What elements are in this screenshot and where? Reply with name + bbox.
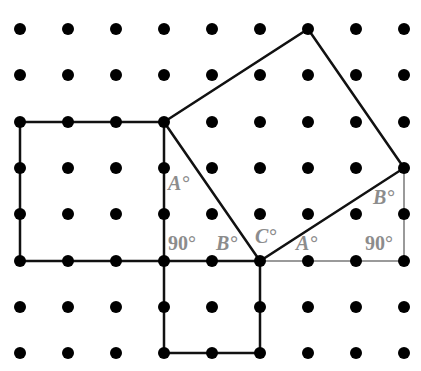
- grid-dot: [110, 69, 122, 81]
- grid-dot: [62, 301, 74, 313]
- grid-dot: [62, 162, 74, 174]
- grid-dot: [350, 255, 362, 267]
- dot-grid-diagram: A° 90° B° C° A° B° 90°: [0, 0, 421, 371]
- grid-dot: [62, 255, 74, 267]
- tilted-square: [164, 29, 404, 261]
- grid-dot: [302, 69, 314, 81]
- grid-dot: [158, 301, 170, 313]
- grid-dot: [14, 69, 26, 81]
- grid-dot: [254, 301, 266, 313]
- grid-dot: [254, 347, 266, 359]
- grid-dot: [398, 301, 410, 313]
- grid-dot: [206, 208, 218, 220]
- grid-dot: [350, 69, 362, 81]
- grid-dot: [254, 255, 266, 267]
- grid-dot: [398, 255, 410, 267]
- label-right-90: 90°: [365, 232, 393, 254]
- grid-dot: [302, 255, 314, 267]
- grid-dot: [110, 255, 122, 267]
- grid-dot: [302, 162, 314, 174]
- grid-dot: [302, 23, 314, 35]
- grid-dot: [302, 208, 314, 220]
- grid-dot: [302, 347, 314, 359]
- grid-dot: [206, 347, 218, 359]
- grid-dot: [158, 69, 170, 81]
- grid-dot: [14, 255, 26, 267]
- grid-dot: [350, 116, 362, 128]
- grid-dot: [110, 301, 122, 313]
- grid-dot: [254, 69, 266, 81]
- grid-dot: [110, 23, 122, 35]
- left-square: [20, 122, 164, 261]
- label-left-90: 90°: [168, 232, 196, 254]
- grid-dot: [14, 347, 26, 359]
- grid-dot: [14, 301, 26, 313]
- grid-dot: [158, 347, 170, 359]
- grid-dot: [206, 23, 218, 35]
- grid-dot: [206, 162, 218, 174]
- grid-dot: [158, 23, 170, 35]
- grid-dot: [398, 162, 410, 174]
- label-center-C: C°: [255, 225, 276, 247]
- grid-dot: [398, 23, 410, 35]
- grid-dot: [254, 208, 266, 220]
- grid-dot: [350, 23, 362, 35]
- grid-dot: [206, 116, 218, 128]
- grid-dot: [14, 116, 26, 128]
- grid-dot: [14, 208, 26, 220]
- grid-dot: [350, 301, 362, 313]
- grid-dot: [254, 162, 266, 174]
- grid-dot: [350, 162, 362, 174]
- grid-dot: [302, 116, 314, 128]
- grid-dot: [254, 23, 266, 35]
- grid-dot: [62, 208, 74, 220]
- grid-dot: [302, 301, 314, 313]
- grid-dot: [158, 208, 170, 220]
- grid-dot: [158, 255, 170, 267]
- grid-dot: [62, 23, 74, 35]
- grid-dot: [62, 347, 74, 359]
- grid-dot: [350, 208, 362, 220]
- label-right-A: A°: [294, 232, 317, 254]
- grid-dot: [14, 23, 26, 35]
- label-right-B: B°: [372, 186, 394, 208]
- grid-dot: [206, 301, 218, 313]
- grid-dot: [398, 347, 410, 359]
- grid-dot: [62, 69, 74, 81]
- grid-dot: [62, 116, 74, 128]
- grid-dot: [110, 162, 122, 174]
- grid-dot: [110, 208, 122, 220]
- grid-dot: [110, 347, 122, 359]
- grid-dot: [398, 116, 410, 128]
- label-left-B: B°: [215, 232, 237, 254]
- grid-dot: [110, 116, 122, 128]
- label-left-A: A°: [166, 172, 189, 194]
- grid-dot: [14, 162, 26, 174]
- grid-dot: [254, 116, 266, 128]
- grid-dot: [158, 116, 170, 128]
- grid-dot: [206, 255, 218, 267]
- grid-dot: [206, 69, 218, 81]
- grid-dot: [398, 208, 410, 220]
- grid-dot: [350, 347, 362, 359]
- grid-dot: [398, 69, 410, 81]
